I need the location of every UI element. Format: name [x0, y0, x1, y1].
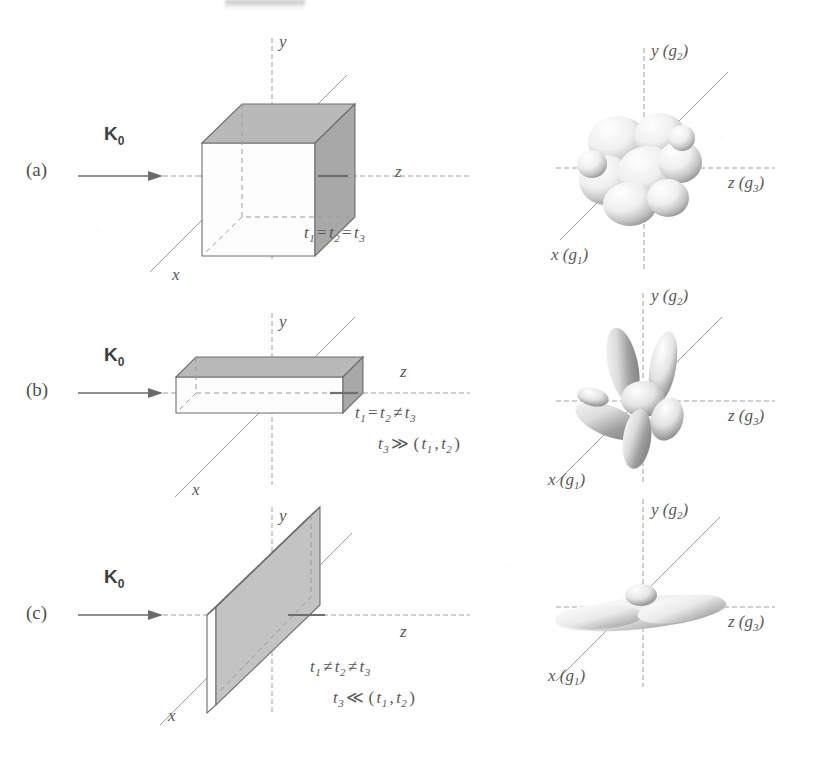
intensity-blob-c: [554, 584, 728, 638]
figure-row-c: (c) K0 y z x t1≠t2≠t3 t3≪(t1,t2): [0, 515, 820, 767]
axis-label-x-recip-c: x (g1): [548, 667, 585, 687]
axis-label-z-recip-b: z (g3): [728, 407, 764, 427]
reciprocal-space-diagram-c: [0, 515, 820, 767]
axis-label-y-recip-c: y (g2): [651, 501, 688, 521]
axis-label-x-recip-b: x (g1): [548, 471, 585, 491]
figure-row-a: (a) K0: [0, 0, 820, 285]
crystal-shape-reciprocal-lattice-figure: (a) K0: [0, 0, 820, 767]
intensity-blob-a: [577, 113, 702, 226]
axis-label-y-recip-a: y (g2): [651, 42, 688, 62]
axis-label-z-recip-a: z (g3): [728, 174, 764, 194]
axis-label-x-recip-a: x (g1): [551, 246, 588, 266]
axis-label-z-recip-c: z (g3): [728, 613, 764, 633]
figure-row-b: (b) K0 y z x t1=t2≠t3 t3≫(t1,t: [0, 285, 820, 515]
axis-label-y-recip-b: y (g2): [651, 287, 688, 307]
reciprocal-space-diagram-a: [0, 0, 820, 285]
reciprocal-space-diagram-b: [0, 285, 820, 515]
intensity-blob-b: [570, 325, 689, 471]
